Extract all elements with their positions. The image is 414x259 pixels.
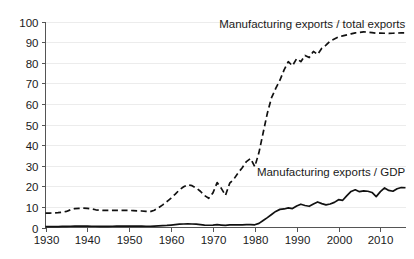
x-tick-label-1980: 1980: [243, 234, 269, 246]
y-tick-label-100: 100: [19, 17, 38, 29]
x-tick-label-2000: 2000: [327, 234, 353, 246]
chart-background: [0, 0, 414, 259]
series-annotation-total-exports: Manufacturing exports / total exports: [219, 18, 405, 30]
x-tick-label-1930: 1930: [34, 234, 60, 246]
y-tick-label-60: 60: [26, 99, 39, 111]
y-tick-label-50: 50: [26, 120, 39, 132]
y-tick-label-40: 40: [26, 140, 39, 152]
y-tick-label-90: 90: [26, 37, 39, 49]
y-tick-label-30: 30: [26, 161, 39, 173]
x-tick-label-1960: 1960: [159, 234, 185, 246]
x-tick-label-1940: 1940: [75, 234, 101, 246]
x-tick-label-2010: 2010: [368, 234, 394, 246]
y-tick-label-10: 10: [26, 202, 39, 214]
y-tick-label-70: 70: [26, 78, 39, 90]
chart-container: 0102030405060708090100 19301940195019601…: [0, 0, 414, 259]
y-tick-label-80: 80: [26, 58, 39, 70]
x-tick-label-1990: 1990: [285, 234, 311, 246]
line-chart: 0102030405060708090100 19301940195019601…: [0, 0, 414, 259]
x-tick-label-1970: 1970: [201, 234, 227, 246]
x-axis-ticks: 193019401950196019701980199020002010: [34, 228, 394, 246]
y-tick-label-20: 20: [26, 181, 39, 193]
x-tick-label-1950: 1950: [117, 234, 143, 246]
series-annotation-gdp: Manufacturing exports / GDP: [257, 166, 406, 178]
